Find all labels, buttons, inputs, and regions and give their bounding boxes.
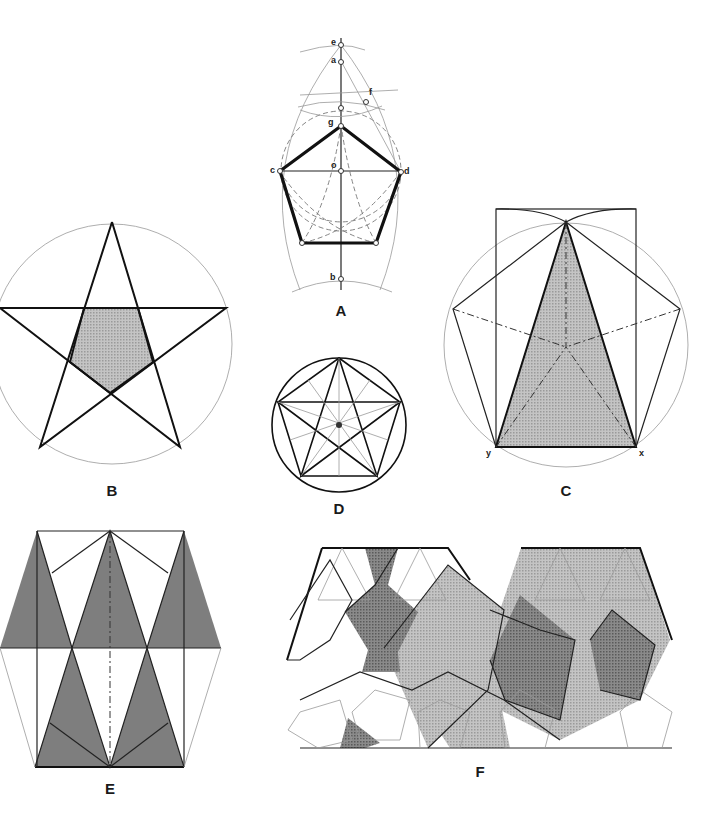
figure-label-e: E bbox=[105, 780, 115, 797]
point-label-e: e bbox=[331, 37, 336, 47]
figure-f-pentagon-tiling bbox=[287, 548, 672, 748]
figure-label-b: B bbox=[107, 482, 118, 499]
figure-label-a: A bbox=[336, 302, 347, 319]
point-label-y: y bbox=[486, 448, 491, 458]
point-label-b: b bbox=[330, 272, 336, 282]
point-label-f: f bbox=[369, 87, 372, 97]
point-label-g: g bbox=[328, 117, 334, 127]
figure-a-pentagon-construction bbox=[278, 38, 404, 292]
figure-c-golden-triangle bbox=[444, 209, 688, 467]
geometry-plate bbox=[0, 0, 717, 828]
figure-b-pentagram bbox=[0, 222, 232, 464]
point-label-d: d bbox=[404, 166, 410, 176]
figure-label-f: F bbox=[475, 763, 484, 780]
point-label-c: c bbox=[270, 165, 275, 175]
figure-label-d: D bbox=[334, 500, 345, 517]
point-label-x: x bbox=[639, 448, 644, 458]
point-label-o: o bbox=[331, 160, 337, 170]
figure-d-pentagram-in-circle bbox=[272, 358, 406, 492]
point-label-a: a bbox=[331, 55, 336, 65]
figure-label-c: C bbox=[561, 482, 572, 499]
figure-e-triangle-tiling bbox=[0, 531, 221, 767]
